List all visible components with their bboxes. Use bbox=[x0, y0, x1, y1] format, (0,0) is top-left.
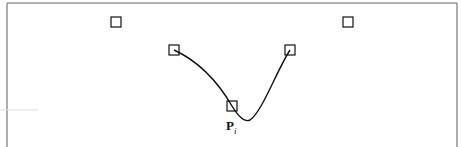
spline-curve bbox=[174, 50, 290, 121]
point-label: Pi bbox=[226, 118, 236, 136]
control-point-box[interactable] bbox=[111, 17, 121, 27]
control-point-box[interactable] bbox=[343, 17, 353, 27]
label-subscript: i bbox=[234, 126, 237, 136]
control-points bbox=[111, 17, 353, 111]
label-main: P bbox=[226, 118, 234, 133]
